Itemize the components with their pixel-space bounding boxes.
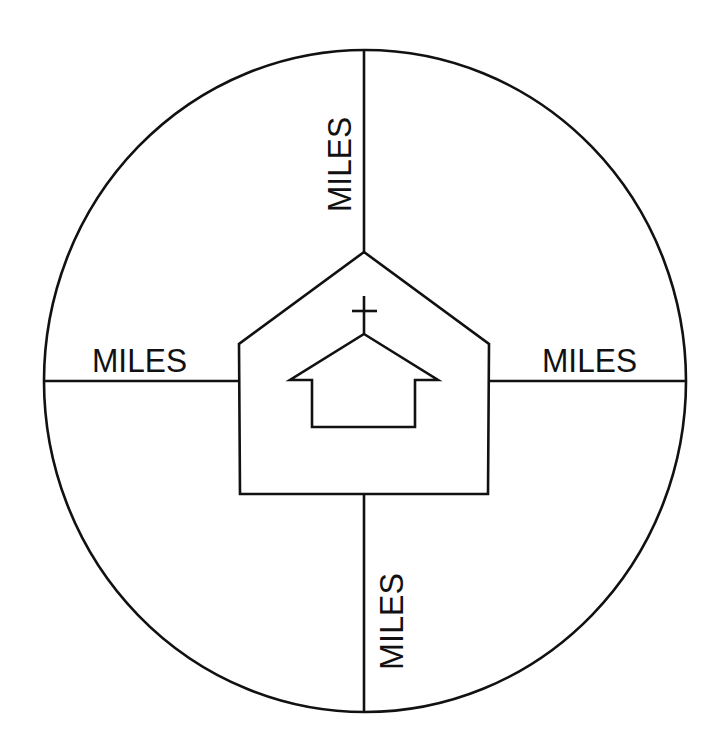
label-bottom-miles: MILES <box>372 573 410 670</box>
label-right-miles: MILES <box>542 341 637 379</box>
label-top-miles: MILES <box>320 117 358 212</box>
radius-diagram: MILES MILES MILES MILES <box>0 0 724 753</box>
church-icon <box>290 296 438 427</box>
label-left-miles: MILES <box>92 341 187 379</box>
church-outline <box>290 334 438 427</box>
center-pentagon <box>239 252 489 494</box>
